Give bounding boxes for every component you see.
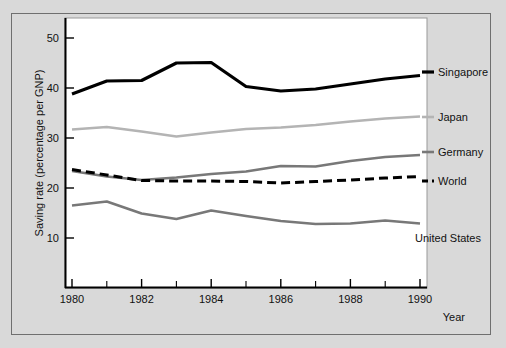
x-axis-title: Year: [443, 311, 466, 323]
saving-rate-line-chart: 1020304050 198019821984198619881990 Sing…: [0, 0, 506, 348]
y-tick-label-40: 40: [47, 82, 59, 94]
y-axis-title: Saving rate (percentage per GNP): [33, 70, 45, 237]
chart-screenshot: 1020304050 198019821984198619881990 Sing…: [0, 0, 506, 348]
x-tick-label-1988: 1988: [338, 293, 362, 305]
y-axis-tick-labels: 1020304050: [47, 32, 59, 244]
x-tick-label-1990: 1990: [408, 293, 432, 305]
legend-label-united-states: United States: [415, 232, 482, 244]
legend-label-germany: Germany: [438, 146, 484, 158]
x-tick-label-1984: 1984: [199, 293, 223, 305]
y-tick-label-10: 10: [47, 232, 59, 244]
x-tick-label-1982: 1982: [129, 293, 153, 305]
x-tick-label-1980: 1980: [60, 293, 84, 305]
x-tick-label-1986: 1986: [269, 293, 293, 305]
plot-area-background: [65, 18, 427, 288]
y-tick-label-30: 30: [47, 132, 59, 144]
y-tick-label-50: 50: [47, 32, 59, 44]
legend-label-world: World: [438, 175, 467, 187]
figure-surface: 1020304050 198019821984198619881990 Sing…: [0, 0, 506, 348]
y-tick-label-20: 20: [47, 182, 59, 194]
x-axis-tick-labels: 198019821984198619881990: [60, 293, 432, 305]
legend-label-singapore: Singapore: [438, 66, 488, 78]
legend-label-japan: Japan: [438, 111, 468, 123]
